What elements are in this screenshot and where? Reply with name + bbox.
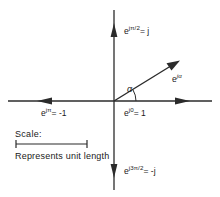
unit-phasor-arrowhead (167, 61, 181, 71)
label-positive-imaginary: ejπ/2= j (124, 25, 149, 35)
real-axis-left-arrowhead (37, 98, 52, 105)
label-angle-alpha: α (127, 85, 132, 94)
complex-plane-phasor-diagram: ejπ/2= j ejπ= -1 ej0= 1 ej3π/2= -j ejα α… (0, 0, 220, 197)
label-positive-real: ej0= 1 (124, 107, 146, 117)
label-positive-imaginary-exponent: jπ/2 (129, 24, 140, 31)
label-positive-real-equals: = 1 (134, 108, 146, 118)
scale-caption: Represents unit length (15, 152, 109, 161)
label-phasor-exponent: jα (177, 72, 182, 79)
imaginary-axis-up-arrowhead (111, 23, 118, 37)
label-phasor: ejα (172, 73, 182, 83)
diagram-canvas (0, 0, 220, 197)
alpha-angle-arc (133, 90, 136, 101)
label-negative-imaginary-exponent: j3π/2 (129, 164, 144, 171)
unit-phasor-arrow-shaft (114, 64, 174, 101)
label-negative-imaginary: ej3π/2= -j (124, 165, 156, 175)
real-axis-right-arrowhead (175, 98, 190, 105)
imaginary-axis-down-arrowhead (111, 164, 118, 178)
label-negative-real: ejπ= -1 (41, 107, 66, 117)
label-negative-real-equals: = -1 (52, 108, 67, 118)
label-positive-imaginary-equals: = j (140, 26, 149, 36)
label-negative-imaginary-equals: = -j (143, 166, 155, 176)
scale-title: Scale: (15, 130, 42, 139)
